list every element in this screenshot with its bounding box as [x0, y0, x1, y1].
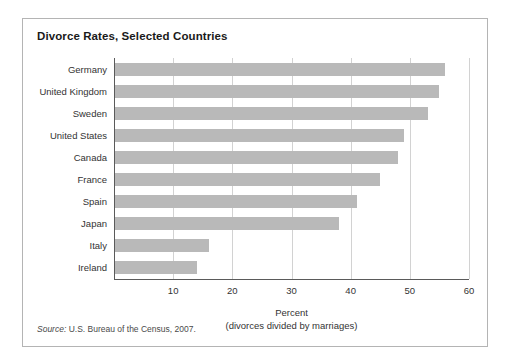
category-label: Ireland [78, 261, 107, 274]
category-label: United States [50, 129, 107, 142]
bar [114, 261, 197, 274]
x-axis-label-line1: Percent [114, 307, 469, 320]
category-label: Spain [83, 195, 107, 208]
bar-row: Italy [114, 235, 469, 257]
bar [114, 63, 445, 76]
bar-row: France [114, 169, 469, 191]
category-label: Germany [68, 63, 107, 76]
category-label: Japan [81, 217, 107, 230]
source-text: U.S. Bureau of the Census, 2007. [66, 324, 195, 334]
bar-row: United Kingdom [114, 80, 469, 102]
bar-row: United States [114, 124, 469, 146]
y-axis-line [114, 58, 115, 279]
chart-plot-area: GermanyUnited KingdomSwedenUnited States… [114, 58, 469, 279]
category-label: Sweden [73, 107, 107, 120]
x-tick-label: 30 [286, 285, 297, 296]
category-label: Italy [90, 239, 107, 252]
figure-panel: Divorce Rates, Selected Countries German… [22, 18, 488, 347]
x-tick-label: 40 [345, 285, 356, 296]
x-axis-line [114, 279, 469, 280]
bar-row: Sweden [114, 102, 469, 124]
x-tick-label: 20 [227, 285, 238, 296]
x-tick-label: 10 [168, 285, 179, 296]
bar [114, 107, 428, 120]
source-prefix: Source: [37, 324, 66, 334]
bar-row: Spain [114, 191, 469, 213]
gridline-60 [469, 58, 470, 279]
category-label: Canada [74, 151, 107, 164]
bar [114, 217, 339, 230]
source-note: Source: U.S. Bureau of the Census, 2007. [37, 324, 196, 334]
bar-row: Canada [114, 146, 469, 168]
bar [114, 239, 209, 252]
x-tick-label: 60 [464, 285, 475, 296]
bar-row: Japan [114, 213, 469, 235]
bar-row: Germany [114, 58, 469, 80]
bar [114, 195, 357, 208]
category-label: United Kingdom [39, 85, 107, 98]
page-title: Divorce Rates, Selected Countries [37, 30, 228, 42]
x-tick-label: 50 [405, 285, 416, 296]
bar-row: Ireland [114, 257, 469, 279]
category-label: France [77, 173, 107, 186]
bar [114, 151, 398, 164]
bar [114, 85, 439, 98]
bar [114, 129, 404, 142]
bar [114, 173, 380, 186]
